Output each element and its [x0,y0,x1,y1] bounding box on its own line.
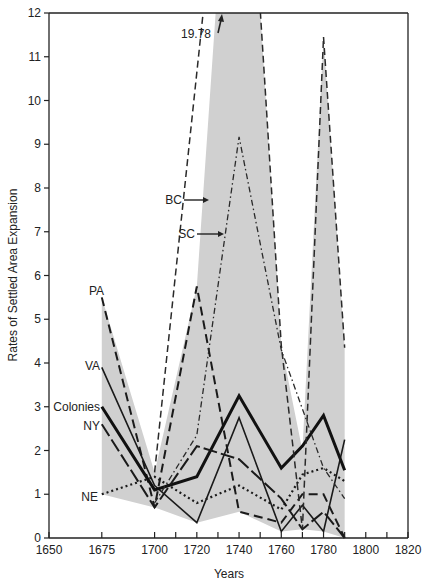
line-chart: 0123456789101112 16501675170017201740176… [0,0,427,585]
x-tick-label: 1700 [141,543,168,557]
y-tick-label: 2 [34,444,41,458]
y-tick-label: 6 [34,269,41,283]
y-tick-label: 9 [34,137,41,151]
x-tick-label: 1675 [88,543,115,557]
y-tick-label: 5 [34,312,41,326]
y-tick-label: 3 [34,400,41,414]
label-PA: PA [89,284,104,298]
label-BC: BC [165,193,182,207]
y-tick-label: 12 [28,6,42,20]
x-tick-label: 1650 [36,543,63,557]
x-tick-label: 1780 [310,543,337,557]
label-Colonies: Colonies [53,400,100,414]
y-axis-title: Rates of Settled Area Expansion [6,189,20,362]
x-tick-label: 1740 [226,543,253,557]
y-ticks: 0123456789101112 [28,6,49,545]
y-tick-label: 1 [34,487,41,501]
y-tick-label: 7 [34,225,41,239]
y-tick-label: 8 [34,181,41,195]
x-axis-title: Years [214,567,244,581]
offscale-value-label: 19.78 [181,27,211,41]
x-tick-label: 1800 [352,543,379,557]
x-tick-label: 1760 [268,543,295,557]
y-tick-label: 11 [29,50,42,64]
x-ticks: 165016751700172017401760178018001820 [36,532,422,557]
label-SC: SC [178,227,195,241]
label-VA: VA [85,359,100,373]
label-NE: NE [81,490,98,504]
y-tick-label: 4 [34,356,41,370]
x-tick-label: 1820 [395,543,422,557]
label-NY: NY [83,419,100,433]
y-tick-label: 10 [28,94,42,108]
x-tick-label: 1720 [183,543,210,557]
